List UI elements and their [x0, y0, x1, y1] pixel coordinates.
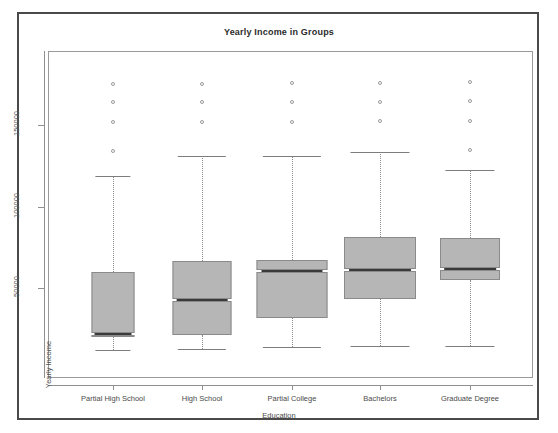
- x-tick-mark: [292, 385, 293, 390]
- x-tick-label: Partial High School: [81, 394, 145, 403]
- y-tick-mark: [38, 207, 44, 208]
- x-tick-mark: [470, 385, 471, 390]
- whisker-cap-lower: [445, 346, 494, 347]
- whisker-upper: [470, 170, 471, 238]
- x-axis-line: [48, 385, 533, 386]
- y-tick-mark: [38, 288, 44, 289]
- x-tick-mark: [202, 385, 203, 390]
- x-tick-label: High School: [182, 394, 222, 403]
- outlier-point: [468, 80, 472, 84]
- plot-area: [48, 51, 533, 378]
- box-lower-quartile: [440, 270, 500, 280]
- box-upper-quartile: [440, 238, 500, 268]
- x-tick-label: Partial College: [268, 394, 317, 403]
- y-axis-title-wrap: Yearly Income: [10, 160, 11, 161]
- outlier-point: [468, 119, 472, 123]
- x-tick-label: Bachelors: [363, 394, 396, 403]
- outlier-point: [468, 99, 472, 103]
- x-tick-mark: [380, 385, 381, 390]
- y-tick-label: 150000: [12, 104, 21, 144]
- whisker-lower: [470, 280, 471, 346]
- x-tick-label: Graduate Degree: [441, 394, 499, 403]
- chart-title: Yearly Income in Groups: [0, 27, 558, 37]
- x-axis-title: Education: [0, 411, 558, 420]
- y-tick-label: 50000: [12, 267, 21, 307]
- chart-page: Yearly Income in Groups Yearly Income 50…: [0, 0, 558, 433]
- outlier-point: [468, 148, 472, 152]
- boxplot-group: [48, 51, 533, 378]
- y-tick-label: 100000: [12, 185, 21, 225]
- y-tick-mark: [38, 125, 44, 126]
- whisker-cap-upper: [445, 170, 494, 171]
- x-tick-mark: [113, 385, 114, 390]
- median-line: [444, 268, 496, 270]
